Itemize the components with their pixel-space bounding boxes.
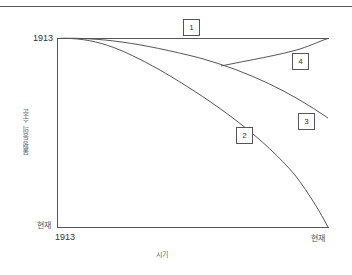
y-axis-bottom-label: 현재	[37, 219, 51, 230]
y-axis-top-label: 1913	[33, 33, 53, 43]
curve-2	[57, 38, 328, 227]
x-axis-right-label: 현재	[311, 232, 325, 243]
x-axis-left-label: 1913	[55, 232, 75, 242]
y-axis-title: 불평등의 수준	[22, 108, 32, 155]
curve-2-label-box: 2	[236, 127, 253, 144]
curve-4	[221, 39, 328, 67]
curve-1-label-box: 1	[183, 19, 200, 36]
curve-4-label-box: 4	[292, 53, 309, 70]
curve-3	[57, 38, 328, 118]
curve-3-label-box: 3	[298, 113, 315, 130]
x-axis-title: 시기	[156, 249, 168, 259]
